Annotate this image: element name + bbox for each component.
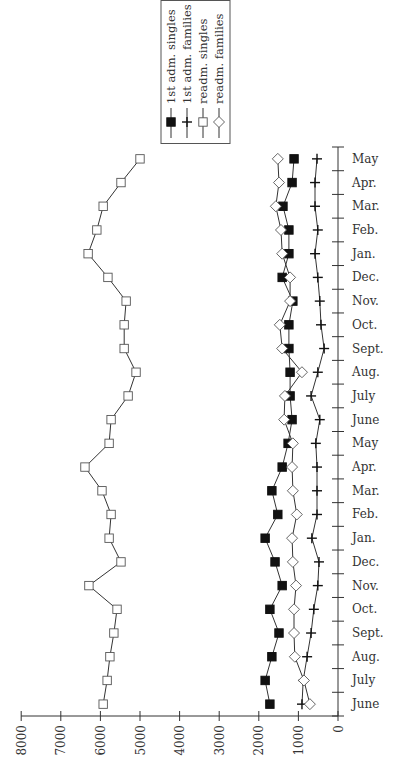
plus-marker xyxy=(310,249,320,259)
month-label: May xyxy=(352,436,378,450)
plus-marker xyxy=(306,391,316,401)
open-square-marker xyxy=(117,178,125,186)
plus-marker xyxy=(311,438,321,448)
value-tick-label: 2000 xyxy=(252,725,266,756)
filled-square-marker xyxy=(268,653,276,661)
open-diamond-marker xyxy=(291,580,302,591)
plus-marker xyxy=(313,367,323,377)
open-diamond-marker xyxy=(291,509,302,520)
month-label: Feb. xyxy=(352,223,378,237)
plus-marker xyxy=(312,486,322,496)
month-label: Jan. xyxy=(350,531,376,545)
filled-square-marker xyxy=(268,487,276,495)
month-label: Dec. xyxy=(352,270,379,284)
open-square-marker xyxy=(124,392,132,400)
plus-marker xyxy=(310,201,320,211)
filled-square-marker xyxy=(261,676,269,684)
month-label: Feb. xyxy=(352,507,378,521)
open-square-marker xyxy=(117,558,125,566)
month-label: Oct. xyxy=(352,602,377,616)
value-tick-label: 1000 xyxy=(292,725,306,756)
open-square-marker xyxy=(106,653,114,661)
value-tick-label: 3000 xyxy=(213,725,227,756)
value-axis: 010002000300040005000600070008000 xyxy=(15,711,346,756)
open-square-marker xyxy=(136,155,144,163)
plus-marker xyxy=(312,462,322,472)
month-label: Aug. xyxy=(351,650,380,664)
value-tick-label: 7000 xyxy=(54,725,68,756)
month-label: July xyxy=(350,389,375,403)
open-square-marker xyxy=(120,344,128,352)
plus-marker xyxy=(309,604,319,614)
month-label: June xyxy=(350,413,379,427)
plus-marker xyxy=(316,320,326,330)
series-1st-adm-families xyxy=(297,154,329,709)
series-layer xyxy=(81,153,329,709)
filled-square-marker xyxy=(286,368,294,376)
month-label: Sept. xyxy=(352,626,384,640)
open-diamond-marker xyxy=(287,556,298,567)
plus-marker xyxy=(306,628,316,638)
month-label: Apr. xyxy=(351,176,377,190)
month-label: Aug. xyxy=(351,365,380,379)
legend-label: 1st adm. families xyxy=(180,4,194,104)
filled-square-marker xyxy=(274,510,282,518)
month-label: Mar. xyxy=(352,484,380,498)
filled-square-marker xyxy=(167,118,175,126)
series-readm-families xyxy=(270,153,315,709)
open-square-marker xyxy=(120,321,128,329)
value-tick-label: 6000 xyxy=(94,725,108,756)
open-diamond-marker xyxy=(289,628,300,639)
line-chart: 1st adm. singles1st adm. familiesreadm. … xyxy=(0,0,394,774)
open-square-marker xyxy=(110,629,118,637)
plus-marker xyxy=(312,509,322,519)
series-readm-singles xyxy=(81,155,144,709)
legend-label: readm. families xyxy=(212,13,226,104)
plus-marker xyxy=(307,533,317,543)
open-square-marker xyxy=(113,605,121,613)
plus-marker xyxy=(313,225,323,235)
month-label: Nov. xyxy=(352,294,379,308)
plus-marker xyxy=(310,178,320,188)
plus-marker xyxy=(315,415,325,425)
open-square-marker xyxy=(99,700,107,708)
series-line xyxy=(276,159,310,704)
value-tick-label: 5000 xyxy=(134,725,148,756)
month-label: Dec. xyxy=(352,555,379,569)
filled-square-marker xyxy=(278,463,286,471)
month-label: Jan. xyxy=(350,247,376,261)
month-label: Mar. xyxy=(352,199,380,213)
open-square-marker xyxy=(93,226,101,234)
open-square-marker xyxy=(99,202,107,210)
open-diamond-marker xyxy=(296,367,307,378)
filled-square-marker xyxy=(271,558,279,566)
value-tick-label: 4000 xyxy=(173,725,187,756)
series-1st-adm-singles xyxy=(261,155,298,709)
filled-square-marker xyxy=(288,178,296,186)
open-diamond-marker xyxy=(272,153,283,164)
open-square-marker xyxy=(132,368,140,376)
plus-marker xyxy=(319,344,329,354)
open-square-marker xyxy=(98,487,106,495)
open-diamond-marker xyxy=(274,319,285,330)
open-square-marker xyxy=(122,297,130,305)
open-square-marker xyxy=(105,439,113,447)
open-diamond-marker xyxy=(273,177,284,188)
open-square-marker xyxy=(85,581,93,589)
open-square-marker xyxy=(81,463,89,471)
series-line xyxy=(265,159,294,704)
filled-square-marker xyxy=(275,629,283,637)
filled-square-marker xyxy=(285,321,293,329)
month-label: Sept. xyxy=(352,342,384,356)
legend: 1st adm. singles1st adm. familiesreadm. … xyxy=(161,1,230,144)
plus-marker xyxy=(313,581,323,591)
open-square-marker xyxy=(103,676,111,684)
month-label: Oct. xyxy=(352,318,377,332)
open-square-marker xyxy=(199,118,207,126)
filled-square-marker xyxy=(278,581,286,589)
series-line xyxy=(302,159,324,704)
filled-square-marker xyxy=(261,534,269,542)
plus-marker xyxy=(302,652,312,662)
filled-square-marker xyxy=(266,605,274,613)
open-square-marker xyxy=(104,273,112,281)
